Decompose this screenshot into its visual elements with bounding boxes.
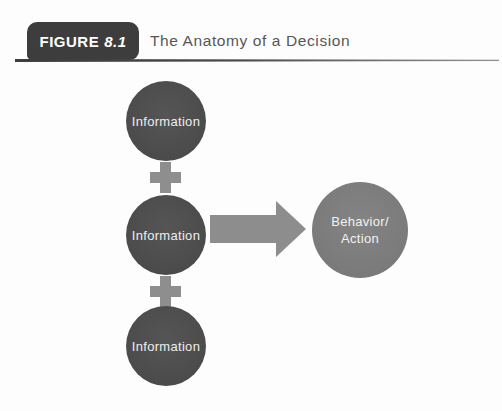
plus-icon	[150, 276, 181, 307]
result-circle-label-line2: Action	[341, 230, 379, 247]
header-rule	[15, 59, 499, 62]
input-circle-3: Information	[126, 306, 206, 386]
input-circle-1: Information	[126, 81, 206, 161]
figure-badge-label: FIGURE	[39, 33, 99, 50]
arrow-right-icon	[210, 201, 306, 257]
input-circle-2-label: Information	[132, 228, 200, 243]
figure-badge: FIGURE 8.1	[27, 22, 139, 60]
input-circle-1-label: Information	[132, 114, 200, 129]
figure-badge-number: 8.1	[104, 33, 126, 50]
input-circle-2: Information	[126, 195, 206, 275]
result-circle: Behavior/ Action	[312, 182, 408, 278]
input-circle-3-label: Information	[132, 339, 200, 354]
plus-icon	[150, 162, 181, 193]
figure-page: FIGURE 8.1 The Anatomy of a Decision Inf…	[0, 0, 502, 411]
result-circle-label-line1: Behavior/	[331, 213, 389, 230]
figure-title: The Anatomy of a Decision	[150, 22, 350, 60]
